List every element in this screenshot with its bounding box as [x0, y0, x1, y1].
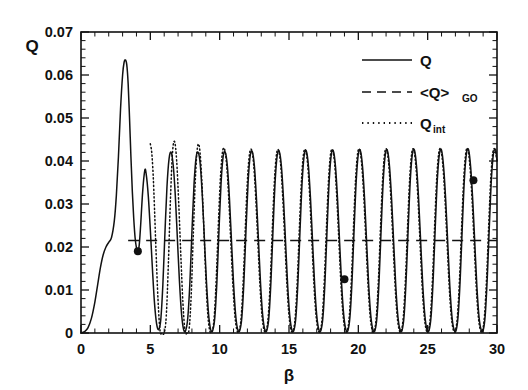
- x-tick-label: 10: [212, 341, 228, 357]
- y-tick-label: 0.01: [45, 282, 73, 298]
- data-point-marker: [469, 176, 477, 184]
- x-tick-label: 0: [77, 341, 85, 357]
- y-tick-label: 0.07: [45, 24, 73, 40]
- legend-label-qint: Q: [420, 115, 432, 132]
- x-tick-label: 15: [281, 341, 297, 357]
- y-tick-label: 0.06: [45, 67, 73, 83]
- x-axis-title: β: [284, 366, 294, 385]
- legend-label-q: Q: [420, 52, 432, 69]
- legend-sub-qint: int: [433, 124, 446, 135]
- x-tick-label: 20: [350, 341, 366, 357]
- y-tick-label: 0.04: [45, 153, 73, 169]
- y-tick-label: 0: [65, 325, 73, 341]
- y-tick-label: 0.03: [45, 196, 73, 212]
- y-tick-label: 0.02: [45, 239, 73, 255]
- chart-svg: 00.010.020.030.040.050.060.07 0510152025…: [0, 0, 528, 390]
- figure-container: 00.010.020.030.040.050.060.07 0510152025…: [0, 0, 528, 390]
- x-tick-label: 30: [489, 341, 505, 357]
- legend-label-qgo: <Q>: [420, 84, 449, 101]
- data-point-marker: [134, 247, 142, 255]
- y-tick-label: 0.05: [45, 110, 73, 126]
- data-point-marker: [340, 275, 348, 283]
- x-tick-label: 25: [420, 341, 436, 357]
- y-axis-title: Q: [25, 37, 38, 56]
- x-tick-label: 5: [146, 341, 154, 357]
- legend-sub-qgo: GO: [462, 93, 478, 104]
